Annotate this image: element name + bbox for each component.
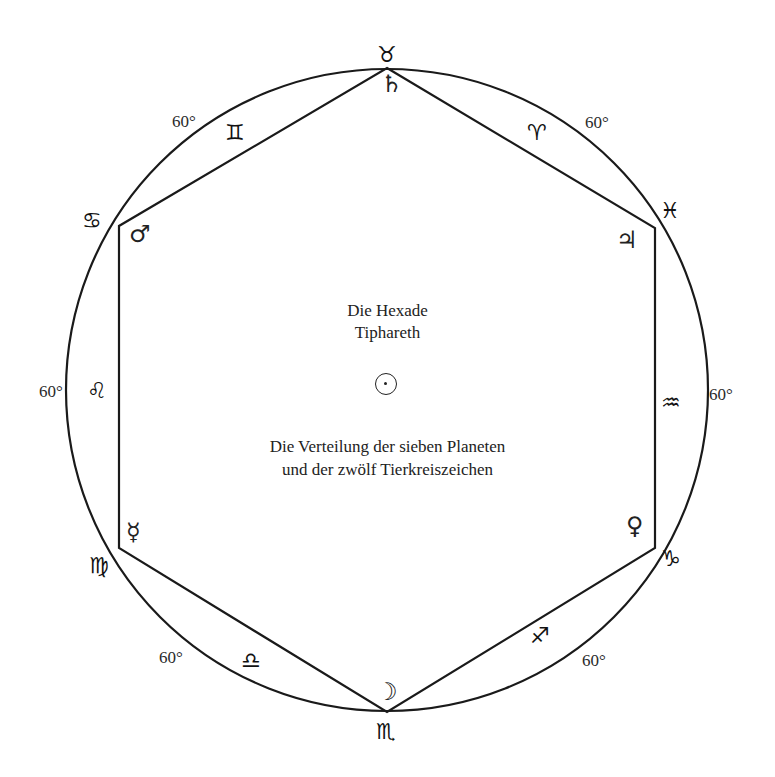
- mercury-icon: ☿: [126, 520, 141, 544]
- angle-label-lower-left: 60°: [159, 649, 183, 666]
- subtitle: Tiphareth: [0, 322, 775, 344]
- moon-icon: ☽: [376, 680, 398, 704]
- angle-label-left: 60°: [39, 383, 63, 400]
- aquarius-icon: ♒: [661, 392, 681, 414]
- sun-icon: [375, 373, 397, 395]
- angle-label-right: 60°: [709, 386, 733, 403]
- capricorn-icon: ♑: [661, 548, 681, 570]
- leo-icon: ♌: [87, 380, 107, 402]
- gemini-icon: ♊: [225, 122, 245, 144]
- title: Die Hexade: [0, 300, 775, 322]
- aries-icon: ♈: [527, 122, 547, 144]
- sagittarius-icon: ♐: [530, 625, 550, 647]
- virgo-icon: ♍: [89, 555, 109, 577]
- venus-icon: ♀: [626, 514, 644, 538]
- pisces-icon: ♓: [660, 200, 680, 222]
- saturn-icon: ♄: [381, 72, 403, 96]
- libra-icon: ♎: [241, 650, 261, 672]
- taurus-icon: ♉: [377, 44, 397, 66]
- cancer-icon: ♋: [82, 210, 102, 232]
- angle-label-upper-right: 60°: [585, 114, 609, 131]
- caption-line-1: Die Verteilung der sieben Planeten: [0, 436, 775, 458]
- scorpio-icon: ♏: [376, 721, 396, 743]
- angle-label-upper-left: 60°: [172, 113, 196, 130]
- jupiter-icon: ♃: [616, 228, 638, 252]
- mars-icon: ♂: [129, 222, 151, 246]
- angle-label-lower-right: 60°: [582, 652, 606, 669]
- caption-line-2: und der zwölf Tierkreiszeichen: [0, 459, 775, 481]
